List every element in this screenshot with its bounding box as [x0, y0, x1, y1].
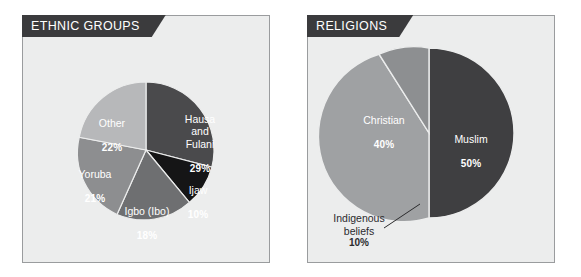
- pie-svg-ethnic: [23, 16, 269, 262]
- infographic-page: ETHNIC GROUPS Hausa and Fulani 29%: [0, 0, 581, 277]
- panel-religions: RELIGIONS Muslim 50% Christian 40%: [307, 15, 555, 263]
- pie-slice-muslim[interactable]: [429, 48, 514, 218]
- pie-chart-ethnic-groups: Hausa and Fulani 29% Ijaw 10% Igbo (Ibo)…: [23, 16, 269, 262]
- pie-callout-indigenous-beliefs: Indigenous beliefs 10%: [316, 212, 402, 250]
- pie-chart-religions: Muslim 50% Christian 40% Indigenous beli…: [308, 16, 554, 262]
- panel-ethnic-groups: ETHNIC GROUPS Hausa and Fulani 29%: [22, 15, 270, 263]
- pie-label-name-indigenous: Indigenous beliefs: [333, 212, 384, 237]
- pie-label-pct-indigenous: 10%: [316, 237, 402, 250]
